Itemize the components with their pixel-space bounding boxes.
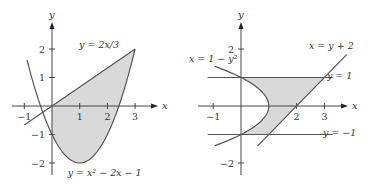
x-axis-arrow-icon	[341, 104, 348, 109]
x-tick-label: 3	[321, 111, 327, 122]
y-axis-label: y	[237, 9, 244, 20]
y-tick-label: −2	[220, 158, 234, 169]
y-tick-label: 2	[39, 44, 45, 55]
x-tick-label: 2	[294, 111, 300, 122]
x-axis-arrow-icon	[151, 104, 158, 109]
chart-canvas: xy−112321−1−2y = 2x/3y = x² − 2x − 1 xy−…	[0, 0, 374, 190]
annotation: y = 1	[326, 70, 352, 81]
x-tick-label: 1	[77, 111, 83, 122]
left-plot: xy−112321−1−2y = 2x/3y = x² − 2x − 1	[12, 9, 168, 178]
y-axis-arrow-icon	[239, 22, 244, 29]
x-axis-label: x	[162, 100, 168, 111]
y-axis-arrow-icon	[50, 22, 55, 29]
x-tick-label: 3	[132, 111, 138, 122]
y-tick-label: 1	[39, 72, 45, 83]
annotation: y = 2x/3	[78, 39, 119, 50]
annotation: x = 1 − y²	[189, 53, 238, 64]
y-axis-label: y	[48, 9, 55, 20]
x-tick-label: −1	[17, 111, 31, 122]
x-axis-label: x	[352, 100, 358, 111]
y-tick-label: −1	[31, 129, 45, 140]
right-plot: xy−1232−2x = 1 − y²x = y + 2y = 1y = −1	[189, 9, 358, 175]
y-tick-label: −2	[31, 158, 45, 169]
x-tick-label: −1	[206, 111, 220, 122]
x-tick-label: 2	[104, 111, 110, 122]
annotation: y = x² − 2x − 1	[67, 167, 142, 178]
annotation: y = −1	[322, 127, 356, 138]
annotation: x = y + 2	[309, 40, 354, 51]
